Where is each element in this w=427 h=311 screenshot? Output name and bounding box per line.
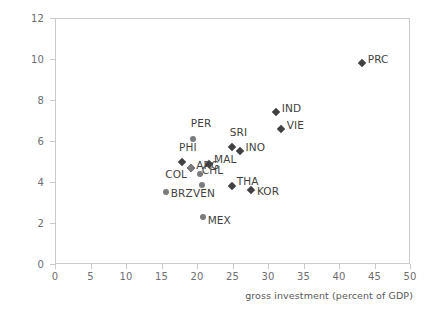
data-point-label-ino: INO [246, 141, 266, 153]
data-point-brz[interactable] [163, 189, 169, 195]
x-tick-mark [304, 264, 305, 269]
data-point-label-mex: MEX [208, 214, 231, 226]
data-point-label-brz: BRZ [171, 187, 193, 199]
data-point-label-prc: PRC [368, 53, 389, 65]
y-tick-label: 0 [38, 259, 44, 270]
y-tick-label: 10 [31, 54, 44, 65]
y-tick-label: 6 [38, 136, 44, 147]
y-tick-mark [50, 141, 55, 142]
x-tick-mark [375, 264, 376, 269]
data-point-label-col: COL [165, 168, 187, 180]
data-point-label-phi: PHI [179, 141, 197, 153]
data-point-label-chl: CHL [202, 164, 223, 176]
x-tick-mark [55, 264, 56, 269]
y-tick-mark [50, 100, 55, 101]
data-point-col[interactable] [188, 165, 194, 171]
y-tick-mark [50, 182, 55, 183]
y-tick-mark [50, 18, 55, 19]
x-tick-label: 30 [262, 271, 275, 282]
x-tick-label: 25 [226, 271, 239, 282]
x-tick-mark [126, 264, 127, 269]
x-tick-mark [233, 264, 234, 269]
x-tick-mark [410, 264, 411, 269]
y-tick-label: 12 [31, 13, 44, 24]
x-tick-label: 20 [191, 271, 204, 282]
x-tick-label: 5 [87, 271, 93, 282]
data-point-label-ind: IND [282, 102, 301, 114]
data-point-label-ven: VEN [193, 187, 215, 199]
data-point-label-kor: KOR [257, 185, 279, 197]
x-tick-mark [197, 264, 198, 269]
x-axis-title: gross investment (percent of GDP) [245, 290, 413, 301]
data-point-label-tha: THA [237, 175, 259, 187]
data-point-label-vie: VIE [287, 119, 304, 131]
x-tick-mark [339, 264, 340, 269]
x-tick-label: 50 [404, 271, 417, 282]
data-point-label-per: PER [191, 117, 212, 129]
y-tick-mark [50, 59, 55, 60]
x-tick-mark [91, 264, 92, 269]
x-tick-label: 45 [368, 271, 381, 282]
data-point-label-sri: SRI [230, 126, 247, 138]
x-tick-label: 15 [155, 271, 168, 282]
y-tick-label: 2 [38, 218, 44, 229]
data-point-mex[interactable] [200, 214, 206, 220]
scatter-chart-figure: 05101520253035404550 024681012 PRCINDVIE… [0, 0, 427, 311]
plot-area [55, 18, 410, 264]
x-tick-label: 10 [120, 271, 133, 282]
y-tick-mark [50, 264, 55, 265]
y-tick-label: 4 [38, 177, 44, 188]
y-tick-mark [50, 223, 55, 224]
x-tick-mark [162, 264, 163, 269]
x-tick-label: 35 [297, 271, 310, 282]
x-tick-mark [268, 264, 269, 269]
x-tick-label: 0 [52, 271, 58, 282]
x-tick-label: 40 [333, 271, 346, 282]
y-tick-label: 8 [38, 95, 44, 106]
